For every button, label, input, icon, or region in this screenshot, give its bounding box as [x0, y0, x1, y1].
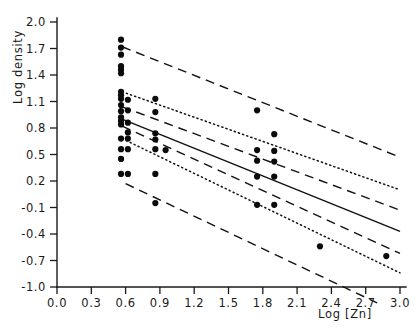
data-point	[152, 146, 158, 152]
y-axis-title: Log density	[11, 30, 25, 104]
plot-canvas: 2.01.71.41.10.80.50.2-0.1-0.4-0.7-1.0 0.…	[0, 0, 414, 328]
y-tick-label: 1.7	[26, 42, 46, 56]
data-point	[152, 136, 158, 142]
data-point	[118, 121, 124, 127]
y-tick-label: -0.1	[21, 201, 46, 215]
data-point	[125, 146, 131, 152]
fit-line-lower-inner-limit	[122, 126, 400, 253]
data-point	[254, 173, 260, 179]
x-tick-label: 2.1	[287, 296, 307, 310]
data-point	[254, 107, 260, 113]
fit-line-lower-prediction-limit	[126, 184, 378, 303]
x-axis-title: Log [Zn]	[318, 307, 372, 321]
data-point	[125, 107, 131, 113]
data-point	[254, 202, 260, 208]
data-point	[163, 147, 169, 153]
data-point	[125, 129, 131, 135]
data-point	[118, 52, 124, 58]
data-point	[118, 96, 124, 102]
y-tick-label: -0.4	[21, 227, 46, 241]
data-point	[254, 158, 260, 164]
x-tick-label: 1.8	[253, 296, 273, 310]
data-point	[118, 156, 124, 162]
fit-line-upper-prediction-limit	[122, 47, 400, 157]
data-point	[383, 253, 389, 259]
data-point	[152, 109, 158, 115]
y-tick-label: 0.8	[26, 121, 46, 135]
data-point	[152, 200, 158, 206]
y-tick-label: 2.0	[26, 15, 46, 29]
axes-frame	[57, 18, 406, 287]
data-point	[125, 136, 131, 142]
data-point	[125, 120, 131, 126]
x-tick-label: 3.0	[390, 296, 410, 310]
data-point	[125, 171, 131, 177]
y-axis-ticks	[50, 22, 57, 287]
x-tick-label: 1.2	[184, 296, 204, 310]
data-point	[118, 70, 124, 76]
y-tick-label: -0.7	[21, 254, 46, 268]
data-point	[118, 146, 124, 152]
x-tick-label: 0.9	[150, 296, 170, 310]
x-tick-label: 1.5	[218, 296, 238, 310]
fit-line-lower-confidence-limit	[122, 139, 400, 273]
x-axis-ticks	[57, 287, 400, 294]
data-point	[118, 108, 124, 114]
regression-lines-group	[122, 47, 400, 303]
data-point	[317, 243, 323, 249]
x-tick-label: 0.3	[81, 296, 101, 310]
x-tick-label: 0.6	[116, 296, 136, 310]
fit-line-upper-inner-limit	[122, 107, 400, 210]
data-point	[118, 102, 124, 108]
data-point	[271, 148, 277, 154]
y-tick-label: 0.5	[26, 148, 46, 162]
data-point	[125, 97, 131, 103]
data-point	[271, 202, 277, 208]
x-tick-label: 0.0	[47, 296, 67, 310]
data-point	[254, 147, 260, 153]
data-point	[118, 171, 124, 177]
data-point	[118, 136, 124, 142]
y-tick-label: 1.1	[26, 95, 46, 109]
data-point	[152, 130, 158, 136]
data-point	[271, 158, 277, 164]
data-point	[152, 96, 158, 102]
y-tick-label: 1.4	[26, 68, 46, 82]
data-point	[152, 171, 158, 177]
data-point	[118, 45, 124, 51]
data-point	[118, 37, 124, 43]
y-tick-label: 0.2	[26, 174, 46, 188]
data-points-group	[118, 37, 389, 260]
data-point	[271, 173, 277, 179]
y-tick-label: -1.0	[21, 280, 46, 294]
scatter-plot-figure: 2.01.71.41.10.80.50.2-0.1-0.4-0.7-1.0 0.…	[0, 0, 414, 328]
data-point	[271, 131, 277, 137]
